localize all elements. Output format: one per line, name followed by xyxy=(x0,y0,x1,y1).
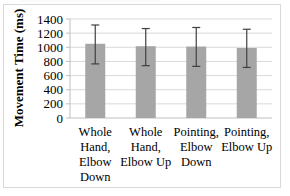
x-axis-labels: WholeHand,ElbowDownWholeHand,Elbow UpPoi… xyxy=(79,125,273,184)
bars xyxy=(85,44,257,118)
y-tick-label: 1200 xyxy=(37,26,63,41)
y-tick-label: 400 xyxy=(44,82,64,97)
x-category-label: Elbow xyxy=(79,155,112,169)
x-category-label: Hand, xyxy=(80,140,110,154)
x-category-label: Elbow Up xyxy=(120,155,171,169)
x-category-label: Pointing, xyxy=(224,125,270,139)
y-tick-label: 800 xyxy=(44,54,64,69)
x-category-label: Elbow xyxy=(180,140,213,154)
x-category-label: Down xyxy=(80,170,111,184)
y-tick-label: 1400 xyxy=(37,12,63,27)
x-category-label: Whole xyxy=(79,125,113,139)
bar-chart: 0200400600800100012001400 WholeHand,Elbo… xyxy=(0,0,290,196)
x-category-label: Pointing, xyxy=(174,125,220,139)
x-category-label: Whole xyxy=(129,125,163,139)
y-tick-label: 1000 xyxy=(37,40,63,55)
y-axis-label: Movement Time (ms) xyxy=(11,9,26,128)
y-tick-label: 0 xyxy=(57,111,64,126)
y-tick-label: 600 xyxy=(44,68,64,83)
x-category-label: Down xyxy=(181,155,212,169)
x-category-label: Hand, xyxy=(131,140,161,154)
y-tick-label: 200 xyxy=(44,96,64,111)
x-category-label: Elbow Up xyxy=(221,140,272,154)
y-axis-ticks: 0200400600800100012001400 xyxy=(37,12,70,126)
